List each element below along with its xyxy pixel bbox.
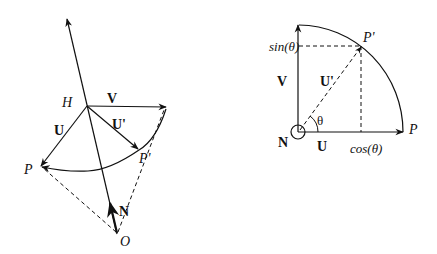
label-sin: sin(θ) [269,39,299,54]
label-U: U [54,123,64,138]
label-N: N [278,135,288,150]
dashed-O-P [42,167,116,232]
vector-V [87,106,166,107]
axis-line [67,19,117,234]
label-O: O [120,234,130,249]
label-U-prime: U' [112,117,126,132]
right-diagram: sin(θ) cos(θ) V U' θ N U P P' [269,25,418,156]
label-N: N [119,204,129,219]
label-P: P [23,162,33,177]
quarter-arc [299,25,403,132]
label-H: H [61,95,73,110]
normal-vector-N [110,203,117,233]
label-U-prime: U' [320,74,334,89]
label-P: P [408,122,418,137]
left-diagram: H V U U' P P' N O [23,19,166,249]
label-U: U [317,139,327,154]
label-P-prime: P' [138,151,152,166]
label-P-prime: P' [362,30,376,45]
label-V: V [277,74,287,89]
label-cos: cos(θ) [350,141,382,156]
figure: H V U U' P P' N O sin(θ) cos(θ) V U' θ N… [0,0,437,254]
label-V: V [107,91,117,106]
label-theta: θ [317,113,323,128]
